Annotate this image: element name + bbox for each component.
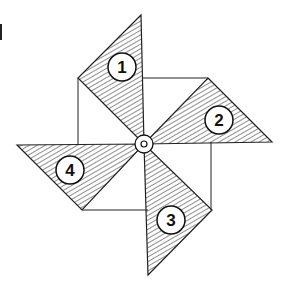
- pinwheel-diagram: 1234: [0, 0, 285, 285]
- blade-3: 3: [144, 144, 212, 275]
- blade-number-label: 3: [166, 211, 175, 230]
- blade-4: 4: [17, 144, 144, 210]
- blade-1: 1: [78, 15, 144, 144]
- blade-2: 2: [144, 78, 272, 144]
- blade-number-label: 4: [65, 161, 75, 180]
- blade-shape: [78, 15, 144, 144]
- blade-number-label: 1: [117, 58, 126, 77]
- center-pin-icon: [135, 135, 153, 153]
- blade-number-label: 2: [214, 111, 223, 130]
- hub-pin: [141, 141, 147, 147]
